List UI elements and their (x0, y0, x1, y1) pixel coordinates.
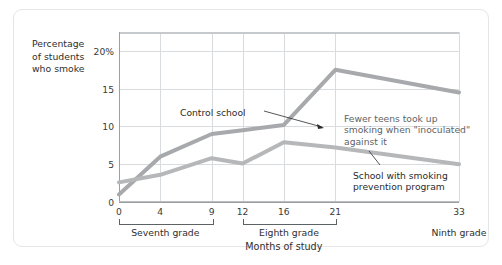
x-tick-label-4: 4 (157, 206, 163, 217)
annotation-control-school: Control school (180, 107, 246, 118)
y-tick-label-20: 20% (94, 45, 114, 56)
annotation-prevention-program-line-2: prevention program (353, 181, 448, 192)
grade-group-label-0: Seventh grade (131, 227, 199, 238)
annotation-inoculated-line-3: against it (344, 136, 470, 147)
annotation-prevention-program-line-1: School with smoking (353, 170, 448, 181)
y-tick-label-0: 0 (108, 197, 114, 208)
gridline-y-0 (119, 202, 459, 203)
grade-group-label-2: Ninth grade (432, 227, 487, 238)
y-axis-title-line-3: who smoke (32, 63, 110, 76)
x-axis-title: Months of study (245, 241, 322, 252)
y-axis-title: Percentage of students who smoke (32, 38, 110, 76)
x-tick-label-9: 9 (209, 206, 215, 217)
bracket-1 (243, 219, 338, 225)
x-tick-label-21: 21 (330, 206, 342, 217)
grade-group-label-1: Eighth grade (259, 227, 319, 238)
annotation-inoculated: Fewer teens took up smoking when "inocul… (344, 113, 470, 147)
y-tick-label-5: 5 (108, 159, 114, 170)
annotation-inoculated-line-1: Fewer teens took up (344, 113, 470, 124)
x-tick-label-33: 33 (453, 206, 465, 217)
annotation-prevention-program: School with smoking prevention program (353, 170, 448, 193)
annotation-inoculated-line-2: smoking when "inoculated" (344, 124, 470, 135)
y-tick-label-15: 15 (102, 83, 114, 94)
x-tick-label-12: 12 (237, 206, 249, 217)
y-tick-label-10: 10 (102, 121, 114, 132)
x-tick-label-0: 0 (116, 206, 122, 217)
chart-figure: Percentage of students who smoke 0510152… (13, 9, 489, 247)
annotation-control-school-text: Control school (180, 107, 246, 118)
x-tick-label-16: 16 (278, 206, 290, 217)
bracket-0 (119, 219, 214, 225)
